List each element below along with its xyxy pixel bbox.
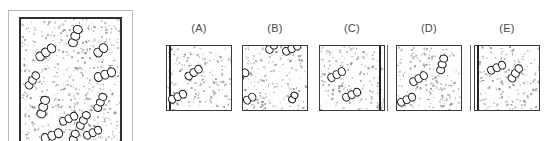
- outer-rule-line: [387, 45, 388, 111]
- option-field-e: [474, 45, 540, 111]
- option-label-e: (E): [468, 22, 546, 34]
- option-label-d: (D): [390, 22, 468, 34]
- edge-membrane-bar: [477, 46, 479, 110]
- option-panel-b[interactable]: (B): [236, 22, 314, 118]
- option-label-c: (C): [313, 22, 391, 34]
- option-label-a: (A): [160, 22, 238, 34]
- option-panel-e[interactable]: (E): [468, 22, 546, 118]
- option-field-b: [242, 45, 308, 111]
- option-field-d: [396, 45, 462, 111]
- option-label-b: (B): [236, 22, 314, 34]
- option-field-a: [166, 45, 232, 111]
- option-panel-a[interactable]: (A): [160, 22, 238, 118]
- main-specimen-panel: [8, 10, 133, 141]
- main-specimen-field: [19, 17, 122, 141]
- edge-membrane-bar: [379, 46, 381, 110]
- option-panel-d[interactable]: (D): [390, 22, 468, 118]
- option-field-c: [319, 45, 385, 111]
- outer-rule-line: [470, 45, 471, 111]
- option-panel-c[interactable]: (C): [313, 22, 391, 118]
